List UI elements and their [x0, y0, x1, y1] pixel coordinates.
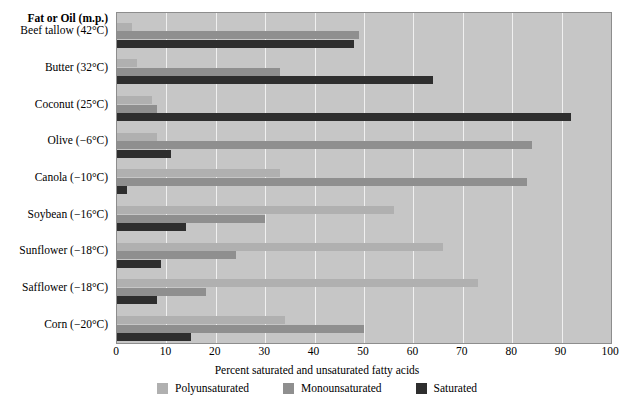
bar [117, 296, 157, 304]
bar [117, 96, 152, 104]
category-label-column: Fat or Oil (m.p.) Beef tallow (42°C)Butt… [0, 12, 112, 342]
x-axis-ticks: 0102030405060708090100 [116, 344, 610, 362]
bar [117, 260, 161, 268]
category-label: Corn (−20°C) [0, 318, 108, 330]
bar [117, 31, 359, 39]
bar-group [117, 160, 611, 197]
x-tick-label: 20 [209, 344, 221, 358]
bar [117, 178, 527, 186]
x-tick-label: 0 [113, 344, 119, 358]
bar [117, 215, 265, 223]
bar [117, 133, 157, 141]
x-tick-label: 50 [357, 344, 369, 358]
plot-area [116, 12, 612, 344]
x-tick-label: 10 [160, 344, 172, 358]
x-tick-label: 60 [407, 344, 419, 358]
legend-swatch-monounsaturated [283, 383, 294, 394]
bar-group [117, 86, 611, 123]
legend-item: Polyunsaturated [157, 381, 249, 395]
chart-legend: PolyunsaturatedMonounsaturatedSaturated [0, 381, 634, 395]
bar-group [117, 13, 611, 50]
bar [117, 59, 137, 67]
legend-item: Saturated [416, 381, 477, 395]
legend-label: Monounsaturated [301, 381, 381, 395]
bar-group [117, 233, 611, 270]
legend-item: Monounsaturated [283, 381, 381, 395]
x-tick-label: 80 [505, 344, 517, 358]
bar [117, 169, 280, 177]
bar [117, 105, 157, 113]
legend-swatch-saturated [416, 383, 427, 394]
category-column-header: Fat or Oil (m.p.) [0, 12, 108, 24]
x-tick-label: 70 [456, 344, 468, 358]
bar [117, 141, 532, 149]
bar [117, 316, 285, 324]
bar [117, 333, 191, 341]
category-label: Butter (32°C) [0, 61, 108, 73]
category-label: Olive (−6°C) [0, 134, 108, 146]
category-label: Coconut (25°C) [0, 98, 108, 110]
bar [117, 251, 236, 259]
category-label: Sunflower (−18°C) [0, 244, 108, 256]
bar-group [117, 270, 611, 307]
x-tick-label: 100 [601, 344, 618, 358]
bar [117, 113, 571, 121]
x-axis-title: Percent saturated and unsaturated fatty … [0, 363, 634, 377]
bar [117, 206, 394, 214]
bar [117, 68, 280, 76]
legend-label: Saturated [434, 381, 477, 395]
category-label: Soybean (−16°C) [0, 208, 108, 220]
bar [117, 279, 478, 287]
bar [117, 288, 206, 296]
bar-group [117, 306, 611, 343]
bar-group [117, 123, 611, 160]
legend-label: Polyunsaturated [175, 381, 249, 395]
bar-group [117, 196, 611, 233]
category-label: Beef tallow (42°C) [0, 24, 108, 36]
bar [117, 243, 443, 251]
category-label: Safflower (−18°C) [0, 281, 108, 293]
gridline [611, 13, 612, 343]
bar [117, 325, 364, 333]
bar [117, 223, 186, 231]
bar [117, 150, 171, 158]
bar [117, 186, 127, 194]
category-label: Canola (−10°C) [0, 171, 108, 183]
bar [117, 76, 433, 84]
bar [117, 40, 354, 48]
bar-group [117, 50, 611, 87]
bar [117, 23, 132, 31]
x-tick-label: 40 [308, 344, 320, 358]
x-tick-label: 90 [555, 344, 567, 358]
x-tick-label: 30 [258, 344, 270, 358]
fatty-acid-bar-chart: Fat or Oil (m.p.) Beef tallow (42°C)Butt… [0, 0, 634, 413]
legend-swatch-polyunsaturated [157, 383, 168, 394]
